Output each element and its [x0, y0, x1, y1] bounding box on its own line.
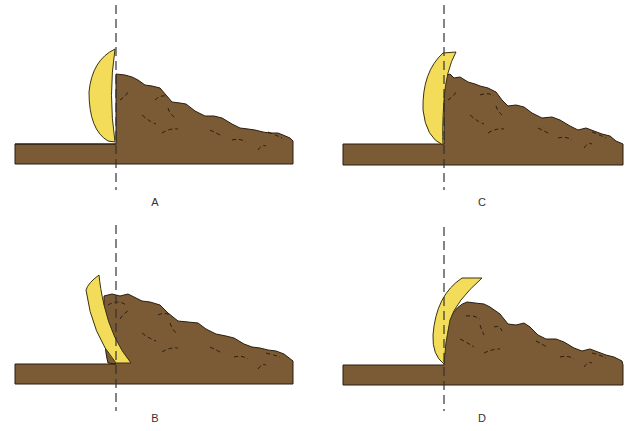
panel-a-drawing [0, 0, 320, 215]
blade [89, 49, 115, 142]
panel-label: B [145, 412, 165, 424]
panel-label: C [472, 196, 492, 208]
panel-d: D [320, 215, 640, 430]
panel-b: B [0, 215, 320, 430]
panel-d-drawing [320, 215, 640, 431]
panel-c-drawing [320, 0, 640, 215]
soil-mound [15, 294, 293, 384]
panel-c: C [320, 0, 640, 215]
panel-label: D [472, 412, 492, 424]
soil-mound [343, 302, 623, 385]
panel-label: A [145, 196, 165, 208]
soil-mound [343, 74, 623, 165]
soil-mound [15, 74, 293, 164]
panel-b-drawing [0, 215, 320, 431]
panel-a: A [0, 0, 320, 215]
